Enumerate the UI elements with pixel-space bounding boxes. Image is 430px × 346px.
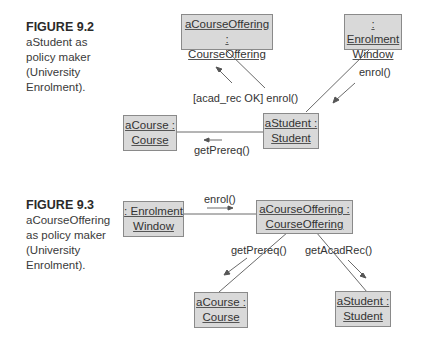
figure-9-2-caption: FIGURE 9.2 aStudent as policy maker (Uni… [26, 20, 94, 95]
caption-line: (University [26, 65, 94, 80]
object-astudent: aStudent : Student [263, 113, 319, 149]
message-getprereq: getPrereq() [231, 244, 287, 256]
link-courseoffering-student [316, 232, 367, 292]
message-enrol: enrol() [204, 193, 236, 205]
object-enrolment-window: : Enrolment Window [344, 14, 402, 50]
message-getprereq: getPrereq() [194, 144, 250, 156]
caption-line: Enrolment). [26, 258, 110, 273]
object-acourseoffering: aCourseOffering : CourseOffering [181, 14, 273, 50]
caption-line: policy maker [26, 50, 94, 65]
message-enrol: enrol() [359, 66, 391, 78]
object-acourseoffering: aCourseOffering : CourseOffering [256, 200, 353, 234]
object-astudent: aStudent : Student [335, 291, 391, 327]
object-acourse: aCourse : Course [194, 292, 248, 328]
object-enrolment-window: : Enrolment Window [123, 201, 184, 237]
figure-title: FIGURE 9.2 [26, 20, 94, 35]
link-courseoffering-course [219, 232, 288, 292]
caption-line: (University [26, 243, 110, 258]
figure-9-3-caption: FIGURE 9.3 aCourseOffering as policy mak… [26, 198, 110, 273]
message-acad-rec-enrol: [acad_rec OK] enrol() [193, 92, 298, 104]
caption-line: Enrolment). [26, 80, 94, 95]
object-acourse: aCourse : Course [123, 115, 177, 151]
caption-line: aCourseOffering [26, 213, 110, 228]
figure-title: FIGURE 9.3 [26, 198, 110, 213]
message-getacadrec: getAcadRec() [305, 244, 372, 256]
caption-line: aStudent as [26, 35, 94, 50]
caption-line: as policy maker [26, 228, 110, 243]
